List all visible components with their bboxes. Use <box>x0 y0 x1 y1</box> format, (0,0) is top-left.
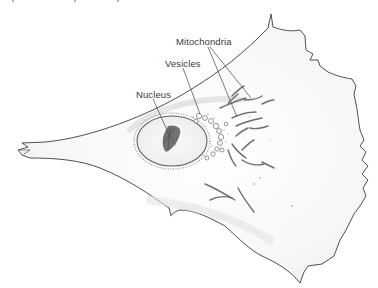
label-vesicles: Vesicles <box>165 59 201 69</box>
cell-illustration: Mitochondria Vesicles Nucleus <box>0 0 378 288</box>
label-mitochondria: Mitochondria <box>176 37 232 47</box>
label-nucleus: Nucleus <box>136 90 171 100</box>
